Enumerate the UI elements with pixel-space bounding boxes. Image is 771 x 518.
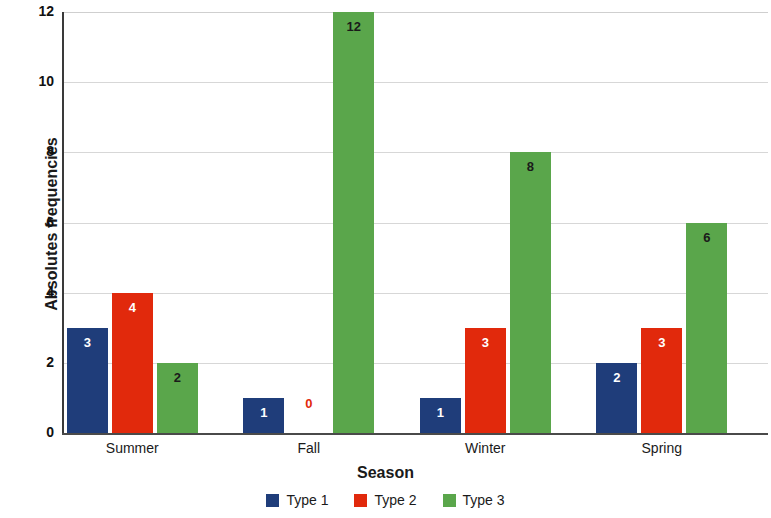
bar-value-label: 3	[641, 336, 682, 349]
bar-value-label: 3	[67, 336, 108, 349]
x-axis-line	[62, 433, 768, 435]
plot-area: 3421012138236	[62, 12, 768, 433]
bar: 1	[243, 398, 284, 433]
legend-item[interactable]: Type 2	[354, 492, 416, 508]
legend-label: Type 2	[374, 492, 416, 508]
gridline	[62, 293, 768, 294]
y-tick-label: 12	[8, 3, 54, 19]
x-category-label: Winter	[390, 440, 581, 456]
x-axis-title: Season	[0, 464, 771, 482]
bar: 2	[157, 363, 198, 433]
gridline	[62, 223, 768, 224]
bar: 6	[686, 223, 727, 434]
bar: 2	[596, 363, 637, 433]
bar: 3	[67, 328, 108, 433]
bar-value-label: 8	[510, 160, 551, 173]
y-tick-label: 4	[8, 284, 54, 300]
bar: 4	[112, 293, 153, 433]
bar-value-label: 12	[333, 20, 374, 33]
bar-value-label: 1	[243, 406, 284, 419]
y-tick-label: 6	[8, 214, 54, 230]
y-tick-label: 2	[8, 354, 54, 370]
gridline	[62, 152, 768, 153]
y-axis-line	[62, 12, 64, 434]
x-category-label: Spring	[566, 440, 757, 456]
bar-value-label: 2	[596, 371, 637, 384]
bar-value-label: 6	[686, 231, 727, 244]
bar-chart: Absolutes frequencies 3421012138236 0246…	[0, 0, 771, 518]
legend-label: Type 3	[463, 492, 505, 508]
bar: 12	[333, 12, 374, 433]
y-tick-label: 0	[8, 424, 54, 440]
bar-value-label: 2	[157, 371, 198, 384]
legend-swatch-icon	[354, 494, 367, 507]
legend-item[interactable]: Type 1	[266, 492, 328, 508]
gridline	[62, 12, 768, 13]
bar: 1	[420, 398, 461, 433]
chart-legend: Type 1Type 2Type 3	[0, 492, 771, 508]
bar: 3	[465, 328, 506, 433]
x-category-label: Fall	[213, 440, 404, 456]
legend-swatch-icon	[266, 494, 279, 507]
bar: 8	[510, 152, 551, 433]
bar-value-label: 0	[288, 396, 329, 411]
legend-label: Type 1	[286, 492, 328, 508]
bar: 3	[641, 328, 682, 433]
y-tick-label: 10	[8, 73, 54, 89]
y-tick-label: 8	[8, 143, 54, 159]
bar-value-label: 4	[112, 301, 153, 314]
gridline	[62, 82, 768, 83]
legend-item[interactable]: Type 3	[443, 492, 505, 508]
bar-value-label: 1	[420, 406, 461, 419]
legend-swatch-icon	[443, 494, 456, 507]
x-category-label: Summer	[37, 440, 228, 456]
bar-value-label: 3	[465, 336, 506, 349]
